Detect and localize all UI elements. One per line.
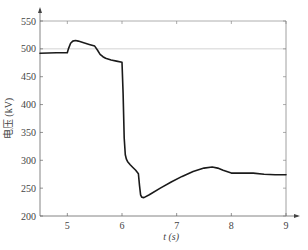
- reference-lines: [40, 21, 286, 49]
- x-tick-label: 6: [120, 220, 125, 231]
- y-axis-label: 电压 (kV): [2, 98, 15, 139]
- axes: [38, 7, 300, 218]
- series-line-voltage: [40, 41, 286, 198]
- y-tick-label: 200: [21, 211, 36, 222]
- y-tick-label: 500: [21, 43, 36, 54]
- x-axis-label: t (s): [163, 231, 180, 243]
- y-tick-label: 400: [21, 99, 36, 110]
- x-axis-arrow-icon: [294, 214, 300, 218]
- y-tick-label: 250: [21, 183, 36, 194]
- y-tick-label: 350: [21, 127, 36, 138]
- x-tick-label: 7: [174, 220, 179, 231]
- tick-labels: 56789200250300350400450500550: [21, 16, 289, 232]
- y-tick-label: 550: [21, 16, 36, 27]
- voltage-chart: 56789200250300350400450500550 t (s) 电压 (…: [0, 0, 308, 250]
- y-tick-label: 450: [21, 71, 36, 82]
- y-tick-label: 300: [21, 155, 36, 166]
- x-tick-label: 5: [65, 220, 70, 231]
- x-tick-label: 9: [284, 220, 289, 231]
- y-axis-arrow-icon: [38, 7, 42, 13]
- x-tick-label: 8: [229, 220, 234, 231]
